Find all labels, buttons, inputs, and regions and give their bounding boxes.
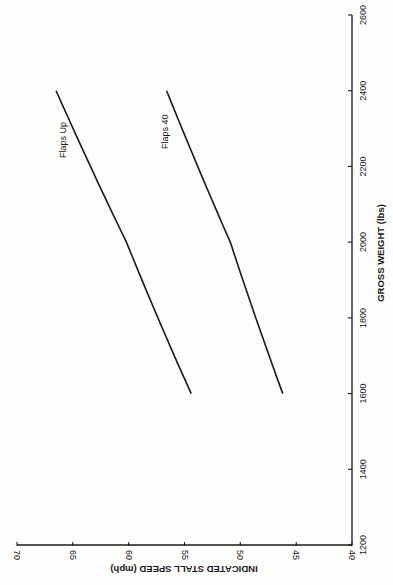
y-axis-tick-labels: 70 65 60 55 50 45 40 bbox=[12, 550, 357, 560]
x-tick-1200: 1200 bbox=[358, 535, 368, 555]
series-label-flaps-up: Flaps Up bbox=[58, 122, 68, 158]
y-axis-title: INDICATED STALL SPEED (mph) bbox=[110, 564, 257, 575]
y-tick-50: 50 bbox=[235, 550, 245, 560]
y-tick-65: 65 bbox=[68, 550, 78, 560]
x-tick-1600: 1600 bbox=[358, 384, 368, 404]
y-tick-45: 45 bbox=[291, 550, 301, 560]
x-tick-2400: 2400 bbox=[358, 81, 368, 101]
series-line-flaps-40 bbox=[167, 91, 283, 394]
series-label-flaps-40: Flaps 40 bbox=[160, 114, 170, 149]
stall-speed-chart: 70 65 60 55 50 45 40 1200 1400 1600 1800… bbox=[0, 0, 393, 585]
x-tick-2000: 2000 bbox=[358, 232, 368, 252]
x-tick-2200: 2200 bbox=[358, 156, 368, 176]
series-line-flaps-up bbox=[56, 91, 191, 394]
x-tick-1400: 1400 bbox=[358, 459, 368, 479]
axes bbox=[17, 15, 352, 545]
y-tick-40: 40 bbox=[347, 550, 357, 560]
y-tick-60: 60 bbox=[124, 550, 134, 560]
x-tick-1800: 1800 bbox=[358, 308, 368, 328]
y-tick-70: 70 bbox=[12, 550, 22, 560]
x-tick-2600: 2600 bbox=[358, 5, 368, 25]
x-axis-title: GROSS WEIGHT (lbs) bbox=[375, 204, 386, 302]
y-tick-55: 55 bbox=[180, 550, 190, 560]
x-axis-tick-labels: 1200 1400 1600 1800 2000 2200 2400 2600 bbox=[358, 5, 368, 555]
